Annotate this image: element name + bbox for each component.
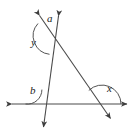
angle-label-x: x — [107, 83, 112, 94]
transversal-line — [40, 16, 111, 119]
geometry-diagram: a y b x — [0, 0, 138, 139]
angle-label-a: a — [47, 13, 53, 24]
angle-label-b: b — [30, 85, 36, 96]
angle-label-y: y — [31, 37, 36, 48]
geometry-canvas — [0, 0, 138, 139]
